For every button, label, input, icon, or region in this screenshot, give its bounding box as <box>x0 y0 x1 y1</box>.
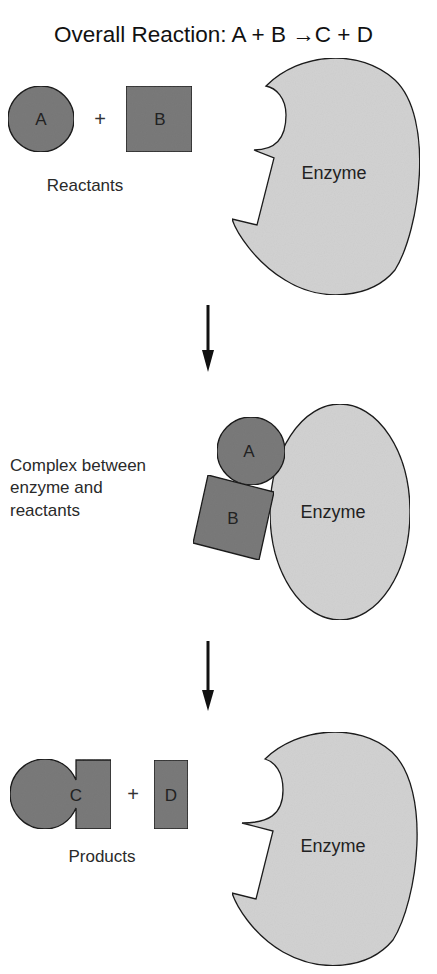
enzyme-label: Enzyme <box>301 163 366 183</box>
enzyme-reaction-diagram: Overall Reaction: A + B →C + D A + B Rea… <box>0 0 437 974</box>
plus-sign: + <box>127 783 139 805</box>
enzyme-label: Enzyme <box>300 502 365 522</box>
complex-label-line-2: enzyme and <box>10 478 103 497</box>
product-c-label: C <box>70 786 82 805</box>
down-arrow-2 <box>202 641 214 711</box>
product-d-label: D <box>165 786 177 805</box>
overall-reaction-title: Overall Reaction: A + B →C + D <box>54 22 373 47</box>
complex-label-line-1: Complex between <box>10 456 146 475</box>
stage-products: C + D Products Enzyme <box>10 732 417 966</box>
molecule-a-label: A <box>35 110 47 129</box>
molecule-a-label: A <box>243 442 255 461</box>
stage-reactants: A + B Reactants Enzyme <box>8 58 420 295</box>
molecule-b-label: B <box>154 110 165 129</box>
enzyme-label: Enzyme <box>300 836 365 856</box>
reactants-label: Reactants <box>47 176 124 195</box>
products-label: Products <box>68 847 135 866</box>
molecule-b-label: B <box>227 509 238 528</box>
down-arrow-1 <box>202 305 214 372</box>
plus-sign: + <box>94 108 106 130</box>
complex-label-line-3: reactants <box>10 501 80 520</box>
product-c <box>10 759 111 829</box>
stage-complex: Complex between enzyme and reactants Enz… <box>10 404 410 620</box>
